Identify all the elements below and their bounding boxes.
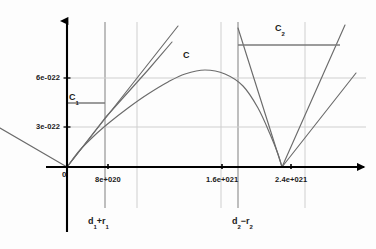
series-cone-right-inner <box>282 73 356 167</box>
series-left-tail <box>0 128 67 167</box>
level-c2-label: C2 <box>275 23 285 35</box>
x-tick-label-0: 8e+020 <box>95 175 121 184</box>
series-tangent-shallow <box>67 42 172 167</box>
marker-d1-plus-r1-label: d1+r1 <box>88 216 109 228</box>
level-lines-group <box>67 45 340 103</box>
x-tick-label-2: 2.4e+021 <box>275 175 307 184</box>
origin-label: 0 <box>62 170 66 179</box>
horizontal-gridlines <box>67 78 366 127</box>
level-c1-label: C1 <box>69 92 79 104</box>
y-tick-label-0: 6e-022 <box>36 73 60 82</box>
series-cone-left-edge <box>238 28 282 167</box>
data-series-group <box>0 25 356 167</box>
y-tick-label-1: 3e-022 <box>36 122 60 131</box>
x-tick-label-1: 1.6e+021 <box>206 175 238 184</box>
series-c <box>67 70 282 167</box>
series-cone-right-edge <box>282 25 345 167</box>
figure-canvas: 06e-0223e-0228e+0201.6e+0212.4e+021CC1C2… <box>0 0 376 249</box>
marker-d2-minus-r2-label: d2−r2 <box>232 216 253 228</box>
curve-c-label: C <box>183 50 190 60</box>
axis-tick-marks <box>64 78 292 169</box>
